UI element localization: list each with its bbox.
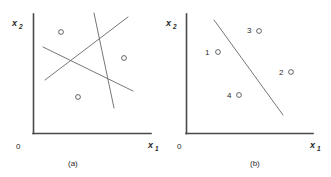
panel-b-point-label-4: 4 (227, 91, 232, 100)
panel-b-x-axis-label-text: x (309, 140, 316, 150)
panel-a-data-point (122, 56, 127, 61)
panel-b-y-axis-label-subscript: 2 (172, 23, 177, 30)
panel-b-point-4: 4 (227, 91, 241, 100)
panel-a-x-axis-label: x 1 (147, 140, 159, 152)
panel-b-caption: (b) (250, 159, 260, 168)
panel-b-data-point (289, 70, 294, 75)
panel-b-point-label-1: 1 (205, 48, 210, 57)
panel-a-y-axis-label-subscript: 2 (18, 23, 23, 30)
panel-b-origin-label: 0 (177, 142, 182, 151)
panel-b-point-label-3: 3 (247, 26, 252, 35)
panel-b-point-3: 3 (247, 26, 261, 35)
panel-a-x-axis-label-subscript: 1 (155, 145, 159, 152)
panel-a-data-point (76, 95, 81, 100)
panel-a-line-2 (45, 17, 128, 80)
panel-b-data-point (237, 93, 242, 98)
panel-b-x-axis-label: x 1 (309, 140, 321, 152)
panel-a-caption: (a) (68, 159, 78, 168)
panel-a-y-axis-label: x 2 (11, 18, 23, 30)
panel-a-data-point (59, 30, 64, 35)
panel-b-y-axis-label-text: x (165, 18, 172, 28)
panel-b-point-1: 1 (205, 48, 220, 57)
panel-a-line-3 (94, 13, 114, 108)
panel-a-lines (43, 13, 133, 108)
panel-a: x 2 x 1 0 (a) (11, 13, 159, 168)
figure-container: x 2 x 1 0 (a) 1 2 (0, 0, 331, 177)
panel-a-line-1 (43, 47, 133, 91)
panel-b-data-point (257, 29, 262, 34)
figure-canvas: x 2 x 1 0 (a) 1 2 (0, 0, 331, 177)
panel-b: 1 2 3 4 x 2 x 1 0 (165, 14, 321, 168)
panel-b-y-axis-label: x 2 (165, 18, 177, 30)
panel-a-y-axis-label-text: x (11, 18, 18, 28)
panel-a-axes (33, 14, 151, 134)
panel-a-points (59, 30, 127, 100)
panel-a-origin-label: 0 (16, 142, 21, 151)
panel-b-point-2: 2 (279, 68, 293, 77)
panel-b-x-axis-label-subscript: 1 (317, 145, 321, 152)
panel-a-x-axis-label-text: x (147, 140, 154, 150)
panel-b-point-label-2: 2 (279, 68, 284, 77)
panel-b-data-point (216, 50, 221, 55)
